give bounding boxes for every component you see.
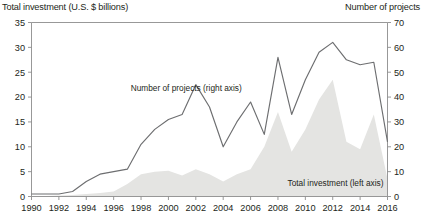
x-axis-tick-label: 2008 xyxy=(268,203,288,213)
x-axis-tick-label: 2000 xyxy=(158,203,178,213)
chart-plot-area: 0510152025303501020304050607019901992199… xyxy=(0,0,423,224)
x-axis-tick-label: 2012 xyxy=(323,203,343,213)
x-axis-tick-label: 1990 xyxy=(21,203,41,213)
x-axis-tick-label: 2002 xyxy=(186,203,206,213)
left-axis-tick-label: 15 xyxy=(15,117,25,127)
x-axis-tick-label: 2006 xyxy=(240,203,260,213)
x-axis-tick-label: 1996 xyxy=(103,203,123,213)
left-axis-tick-label: 20 xyxy=(15,92,25,102)
right-axis-title: Number of projects xyxy=(345,2,420,12)
right-axis-tick-label: 60 xyxy=(394,43,404,53)
right-axis-tick-label: 50 xyxy=(394,68,404,78)
right-axis-tick-label: 0 xyxy=(394,192,399,202)
right-axis-tick-label: 70 xyxy=(394,18,404,28)
left-axis-title: Total investment (U.S. $ billions) xyxy=(2,2,128,12)
right-axis-tick-label: 10 xyxy=(394,167,404,177)
x-axis-tick-label: 2016 xyxy=(377,203,397,213)
left-axis-tick-label: 0 xyxy=(20,192,25,202)
right-axis-tick-label: 40 xyxy=(394,92,404,102)
x-axis-tick-label: 1994 xyxy=(76,203,96,213)
right-axis-tick-label: 20 xyxy=(394,142,404,152)
x-axis-tick-label: 1992 xyxy=(49,203,69,213)
left-axis-tick-label: 10 xyxy=(15,142,25,152)
left-axis-tick-label: 35 xyxy=(15,18,25,28)
right-axis-tick-label: 30 xyxy=(394,117,404,127)
x-axis-tick-label: 2014 xyxy=(350,203,370,213)
x-axis-tick-label: 2010 xyxy=(295,203,315,213)
area-series-annotation: Total investment (left axis) xyxy=(288,178,384,188)
left-axis-tick-label: 5 xyxy=(20,167,25,177)
line-series-annotation: Number of projects (right axis) xyxy=(131,83,242,93)
x-axis-tick-label: 1998 xyxy=(131,203,151,213)
left-axis-tick-label: 30 xyxy=(15,43,25,53)
x-axis-tick-label: 2004 xyxy=(213,203,233,213)
investment-projects-chart: Total investment (U.S. $ billions) Numbe… xyxy=(0,0,423,224)
left-axis-tick-label: 25 xyxy=(15,68,25,78)
